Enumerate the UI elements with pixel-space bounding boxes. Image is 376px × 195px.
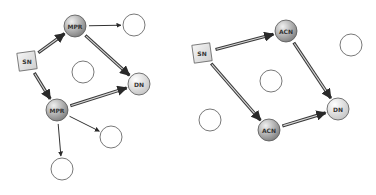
sn-node: SN <box>192 43 212 63</box>
node-circle-icon <box>123 14 145 36</box>
nodes-layer: SNMPRMPRDNSNACNACNDN <box>17 14 362 180</box>
empty-node <box>199 109 221 131</box>
empty-node <box>340 34 362 56</box>
node-circle-icon <box>260 70 282 92</box>
acn-node: ACN <box>258 119 280 141</box>
empty-node <box>260 70 282 92</box>
left-mpr-diagram-nodes: SNMPRMPRDN <box>17 14 150 180</box>
mpr-node: MPR <box>64 15 86 37</box>
empty-node <box>100 126 122 148</box>
right-acn-diagram-nodes: SNACNACNDN <box>192 20 362 141</box>
edge-sn-to-mpr2 <box>34 73 50 99</box>
edge-mpr2-to-e3 <box>70 116 100 131</box>
edge-sn-to-acn2 <box>211 64 260 121</box>
edge-sn-to-mpr1 <box>38 34 64 53</box>
empty-node <box>72 61 94 83</box>
node-label: SN <box>197 50 206 57</box>
edge-mpr2-to-e4 <box>58 124 61 156</box>
network-diagram-canvas: SNMPRMPRDNSNACNACNDN <box>0 0 376 195</box>
edge-acn1-to-dn <box>294 43 331 99</box>
acn-node: ACN <box>275 20 297 42</box>
dn-node: DN <box>327 98 349 120</box>
edges-layer <box>34 25 330 156</box>
node-circle-icon <box>51 158 73 180</box>
sn-node: SN <box>17 51 37 71</box>
edge-mpr1-to-e1 <box>89 25 121 26</box>
edge-sn-to-acn1 <box>216 34 274 49</box>
node-label: SN <box>22 58 31 65</box>
node-circle-icon <box>199 109 221 131</box>
dn-node: DN <box>128 73 150 95</box>
node-label: MPR <box>68 23 83 30</box>
node-circle-icon <box>100 126 122 148</box>
node-label: ACN <box>262 127 276 134</box>
node-label: ACN <box>279 28 293 35</box>
node-label: DN <box>134 81 144 88</box>
empty-node <box>123 14 145 36</box>
node-label: MPR <box>50 107 65 114</box>
edge-acn2-to-dn <box>282 113 325 126</box>
edge-mpr2-to-dn <box>70 88 126 106</box>
node-circle-icon <box>72 61 94 83</box>
node-label: DN <box>333 106 343 113</box>
node-circle-icon <box>340 34 362 56</box>
mpr-node: MPR <box>46 99 68 121</box>
empty-node <box>51 158 73 180</box>
